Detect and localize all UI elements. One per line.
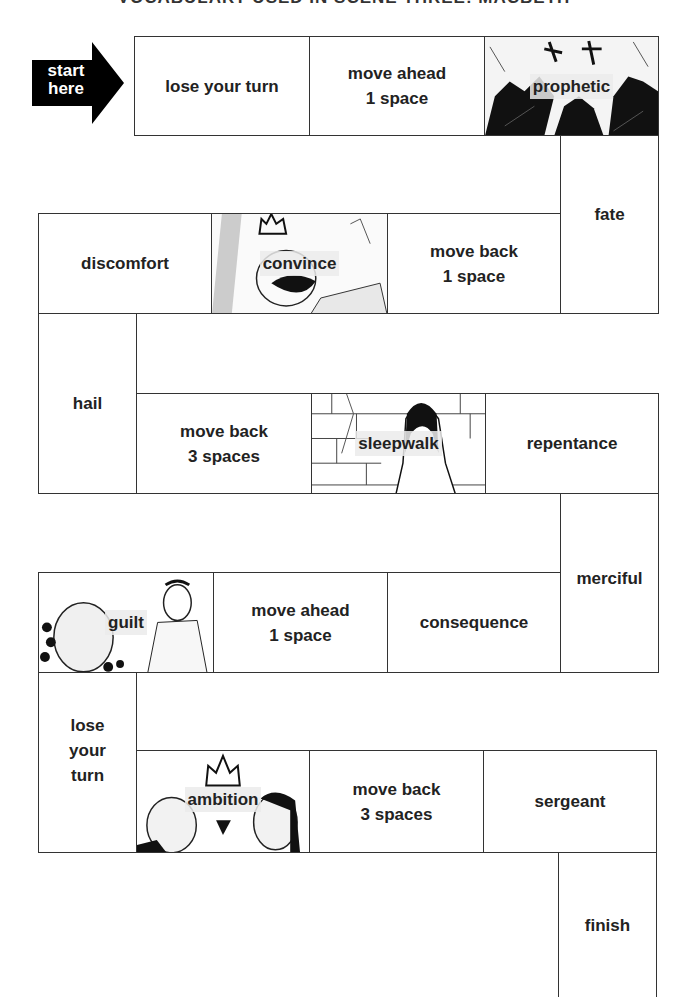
square-label: convince <box>260 251 340 276</box>
square-18[interactable]: move back 3 spaces <box>309 750 484 853</box>
square-8[interactable]: hail <box>38 313 137 494</box>
square-label: lose your turn <box>69 713 106 788</box>
square-label: hail <box>73 391 102 416</box>
square-19[interactable]: sergeant <box>483 750 657 853</box>
square-20-finish[interactable]: finish <box>558 852 657 997</box>
square-9[interactable]: move back 3 spaces <box>136 393 312 494</box>
square-3[interactable]: prophetic <box>484 36 659 136</box>
square-label: guilt <box>105 610 147 635</box>
square-label: sergeant <box>535 789 606 814</box>
square-label: move back 3 spaces <box>180 419 268 469</box>
square-2[interactable]: move ahead 1 space <box>309 36 485 136</box>
square-label: move ahead 1 space <box>251 598 349 648</box>
square-label: move back 3 spaces <box>353 777 441 827</box>
square-label: discomfort <box>81 251 169 276</box>
square-11[interactable]: repentance <box>485 393 659 494</box>
square-label: move back 1 space <box>430 239 518 289</box>
square-15[interactable]: guilt <box>38 572 214 673</box>
square-label: repentance <box>527 431 618 456</box>
square-12[interactable]: merciful <box>560 493 659 673</box>
square-label: lose your turn <box>165 74 278 99</box>
square-label: move ahead 1 space <box>348 61 446 111</box>
square-7[interactable]: discomfort <box>38 213 212 314</box>
square-14[interactable]: move ahead 1 space <box>213 572 388 673</box>
square-17[interactable]: ambition <box>136 750 310 853</box>
square-1[interactable]: lose your turn <box>134 36 310 136</box>
square-label: prophetic <box>530 74 613 99</box>
square-4[interactable]: fate <box>560 135 659 314</box>
square-16[interactable]: lose your turn <box>38 672 137 853</box>
square-label: ambition <box>185 787 262 812</box>
square-label: merciful <box>576 566 642 591</box>
start-label: start here <box>36 62 96 98</box>
square-10[interactable]: sleepwalk <box>311 393 486 494</box>
square-13[interactable]: consequence <box>387 572 561 673</box>
square-label: sleepwalk <box>355 431 441 456</box>
square-6[interactable]: convince <box>211 213 388 314</box>
square-label: finish <box>585 913 630 938</box>
square-label: fate <box>594 202 624 227</box>
page-title: VOCABULARY USED IN SCENE THREE: MACBETH <box>0 0 688 8</box>
square-label: consequence <box>420 610 529 635</box>
square-5[interactable]: move back 1 space <box>387 213 561 314</box>
